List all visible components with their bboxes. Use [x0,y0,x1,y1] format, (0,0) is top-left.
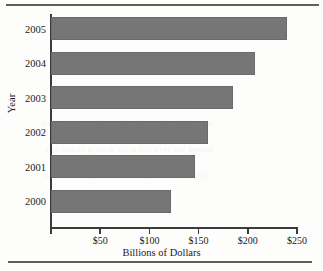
x-tick-100 [149,228,151,234]
bar-2005 [51,17,287,40]
bar-chart-figure: the numbers and trends shown here illust… [0,0,323,271]
x-tick-label-150: $150 [189,235,209,246]
bottom-horizontal-rule [8,261,312,263]
y-tick-label-2002: 2002 [12,127,46,138]
top-horizontal-rule [6,4,319,6]
x-tick-label-250: $250 [287,235,307,246]
x-tick-label-200: $200 [238,235,258,246]
y-tick-label-2005: 2005 [12,23,46,34]
x-tick-50 [99,228,101,234]
y-tick-label-2004: 2004 [12,58,46,69]
bar-2001 [51,155,195,178]
x-tick-label-50: $50 [93,235,108,246]
bar-2000 [51,190,171,213]
x-tick-label-100: $100 [139,235,159,246]
y-tick-label-2000: 2000 [12,196,46,207]
x-tick-0 [50,228,52,234]
x-tick-200 [247,228,249,234]
bar-2004 [51,52,255,75]
y-axis-title: Year [6,94,17,113]
y-tick-label-2001: 2001 [12,161,46,172]
x-tick-250 [296,228,298,234]
x-axis-title: Billions of Dollars [0,247,323,258]
bar-2003 [51,86,233,109]
bar-2002 [51,121,208,144]
x-axis-line [51,227,298,229]
x-tick-150 [198,228,200,234]
